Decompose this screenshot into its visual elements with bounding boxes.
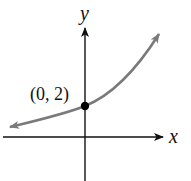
exponential-graph: y x (0, 2) xyxy=(0,0,191,181)
y-axis-label: y xyxy=(78,2,89,25)
point-label: (0, 2) xyxy=(30,84,69,105)
x-axis-label: x xyxy=(168,125,178,147)
y-intercept-point xyxy=(81,102,89,110)
